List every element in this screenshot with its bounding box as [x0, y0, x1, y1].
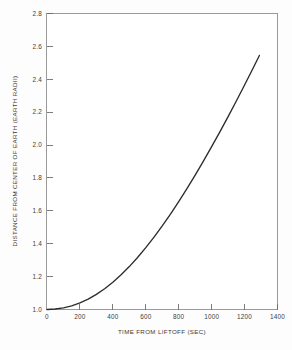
- y-tick-label: 1.2: [33, 273, 43, 280]
- y-tick-label: 1.8: [33, 174, 43, 181]
- y-axis-tick-labels: 1.01.21.41.61.82.02.22.42.62.8: [33, 10, 43, 313]
- line-chart: 1.01.21.41.61.82.02.22.42.62.8 020040060…: [0, 0, 292, 350]
- x-axis-title: TIME FROM LIFTOFF (SEC): [118, 328, 206, 335]
- y-tick-label: 2.4: [33, 76, 43, 83]
- x-axis-tick-labels: 0200400600800100012001400: [45, 313, 285, 320]
- y-tick-label: 1.6: [33, 207, 43, 214]
- y-tick-label: 2.0: [33, 141, 43, 148]
- x-tick-label: 400: [107, 313, 119, 320]
- x-tick-label: 0: [45, 313, 49, 320]
- x-tick-label: 200: [74, 313, 86, 320]
- y-tick-label: 2.8: [33, 10, 43, 17]
- y-tick-label: 1.4: [33, 240, 43, 247]
- x-tick-label: 1400: [270, 313, 285, 320]
- x-tick-label: 600: [140, 313, 152, 320]
- x-tick-label: 1000: [204, 313, 219, 320]
- x-tick-label: 800: [173, 313, 185, 320]
- plot-area-background: [46, 13, 278, 310]
- y-axis-title: DISTANCE FROM CENTER OF EARTH (EARTH RAD…: [11, 76, 18, 247]
- y-tick-label: 2.2: [33, 108, 43, 115]
- x-tick-label: 1200: [237, 313, 252, 320]
- y-tick-label: 2.6: [33, 43, 43, 50]
- y-tick-label: 1.0: [33, 306, 43, 313]
- figure-container: 1.01.21.41.61.82.02.22.42.62.8 020040060…: [0, 0, 292, 350]
